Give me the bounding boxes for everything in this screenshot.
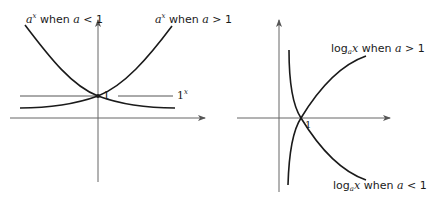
label-log-a-lt-1: logax when a < 1 [333, 180, 427, 193]
label-one-x: 1x [177, 89, 188, 101]
label-exp-a-gt-1: ax when a > 1 [155, 13, 232, 25]
label-exponent: x [184, 88, 188, 96]
label-text: when [166, 13, 203, 26]
label-base: 1 [177, 89, 184, 102]
label-text: when [360, 179, 397, 192]
label-fn: log [333, 179, 350, 192]
label-text: when [358, 42, 395, 55]
log-curve-a-gt-1 [288, 56, 366, 185]
label-cond: < 1 [403, 179, 426, 192]
left-intersection-point [96, 94, 100, 98]
label-text: when [37, 13, 74, 26]
label-cond: > 1 [209, 13, 232, 26]
left-intercept-label: 1 [103, 90, 110, 101]
label-fn: log [331, 42, 348, 55]
label-log-a-gt-1: logax when a > 1 [331, 43, 425, 56]
right-intercept-label: 1 [305, 120, 311, 130]
label-cond: < 1 [80, 13, 103, 26]
label-cond: > 1 [401, 42, 424, 55]
log-curve-a-lt-1 [289, 50, 366, 180]
label-exp-a-lt-1: ax when a < 1 [26, 13, 103, 25]
